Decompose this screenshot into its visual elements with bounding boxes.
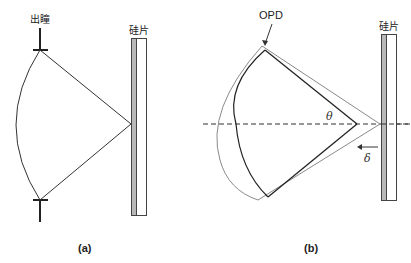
opd-arrow-head [262, 40, 268, 46]
wafer-label-b: 硅片 [379, 20, 399, 32]
ray-upper-shifted [262, 46, 380, 124]
theta-label: θ [326, 110, 333, 123]
wavefront-arc-shifted [217, 46, 262, 200]
panel-a: 出瞳 硅片 (a) [16, 13, 149, 254]
ray-lower-shifted [258, 124, 380, 200]
wafer-label-a: 硅片 [129, 24, 149, 36]
ray-lower [40, 124, 131, 200]
diagram-canvas: 出瞳 硅片 (a) OPD [0, 0, 411, 263]
delta-arrow-head [357, 144, 362, 150]
wavefront-arc [16, 50, 40, 200]
exit-pupil-label: 出瞳 [30, 13, 50, 25]
wafer-layer-b [382, 35, 387, 201]
opd-label: OPD [259, 9, 283, 21]
caption-b: (b) [304, 242, 318, 254]
caption-a: (a) [78, 242, 92, 254]
delta-label: δ [364, 152, 371, 165]
panel-b: OPD θ δ 硅片 (b) [203, 9, 411, 254]
wafer-layer-a [132, 39, 137, 216]
ray-lower-nominal [268, 124, 357, 197]
wafer-substrate-b [387, 35, 397, 201]
wafer-substrate-a [137, 39, 147, 216]
ray-upper-nominal [265, 50, 357, 124]
ray-upper [40, 50, 131, 124]
